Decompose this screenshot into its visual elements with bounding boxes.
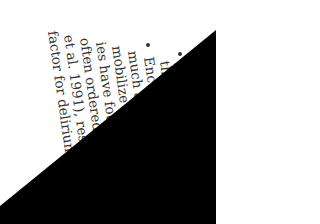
bullet-icon	[146, 43, 150, 47]
bullet-icon	[178, 52, 182, 56]
